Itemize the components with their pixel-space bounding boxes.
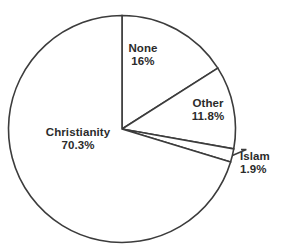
- pie-label-other-name: Other: [174, 97, 242, 110]
- pie-label-none-name: None: [112, 42, 174, 55]
- pie-label-christianity: Christianity 70.3%: [22, 126, 134, 153]
- pie-label-none-value: 16%: [112, 55, 174, 68]
- pie-chart-graphic: [0, 0, 286, 249]
- pie-label-christianity-value: 70.3%: [22, 139, 134, 152]
- pie-label-islam-value: 1.9%: [240, 163, 286, 176]
- pie-label-none: None 16%: [112, 42, 174, 69]
- pie-label-other: Other 11.8%: [174, 97, 242, 124]
- pie-label-christianity-name: Christianity: [22, 126, 134, 139]
- pie-chart: Christianity 70.3% None 16% Other 11.8% …: [0, 0, 286, 249]
- pie-label-islam: Islam 1.9%: [240, 150, 286, 177]
- pie-label-other-value: 11.8%: [174, 110, 242, 123]
- pie-label-islam-name: Islam: [240, 150, 286, 163]
